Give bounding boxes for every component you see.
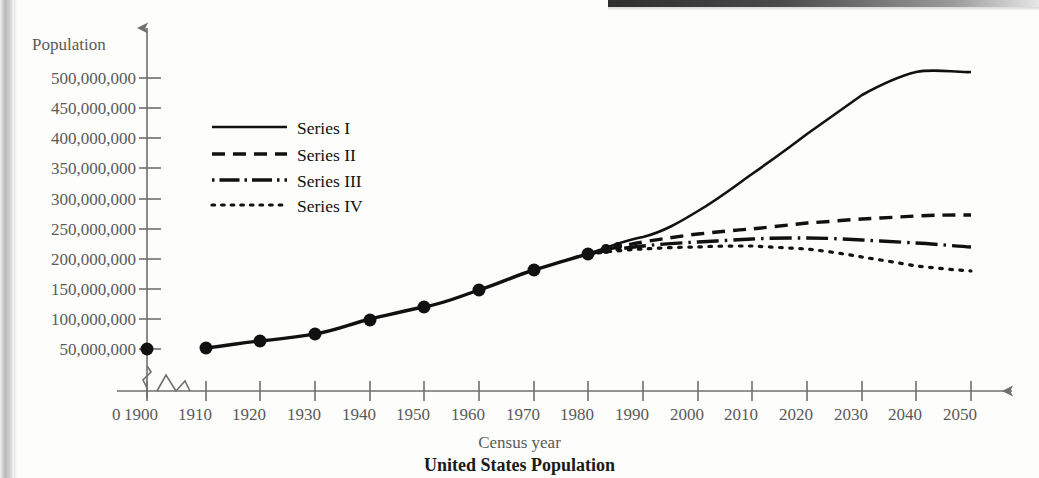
x-tick-label: 1940 bbox=[342, 406, 376, 423]
x-tick-label: 2000 bbox=[670, 406, 704, 423]
origin-label: 0 bbox=[112, 406, 121, 423]
figure-page: Population 500,000,000 450,000,000 400,0… bbox=[0, 0, 1039, 478]
x-tick-label: 1990 bbox=[615, 406, 649, 423]
chart-title: United States Population bbox=[0, 456, 1039, 474]
legend-sample-lines bbox=[212, 127, 287, 205]
y-tick-label: 150,000,000 bbox=[26, 281, 136, 298]
y-tick-label: 100,000,000 bbox=[26, 311, 136, 328]
y-axis-title: Population bbox=[32, 36, 106, 53]
x-tick-label: 1950 bbox=[396, 406, 430, 423]
x-tick-label: 1970 bbox=[506, 406, 540, 423]
x-tick-label: 1980 bbox=[560, 406, 594, 423]
data-point-markers bbox=[141, 242, 623, 356]
y-tick-label: 450,000,000 bbox=[26, 100, 136, 117]
x-tick-label: 1920 bbox=[232, 406, 266, 423]
x-tick-label: 1910 bbox=[178, 406, 212, 423]
legend-label-series-3: Series III bbox=[297, 171, 362, 192]
x-tick-label: 1960 bbox=[451, 406, 485, 423]
x-tick-label: 1930 bbox=[287, 406, 321, 423]
series-4-line bbox=[588, 246, 971, 271]
x-axis bbox=[117, 375, 1012, 401]
x-tick-label: 2050 bbox=[943, 406, 977, 423]
y-tick-label: 200,000,000 bbox=[26, 251, 136, 268]
x-axis-title: Census year bbox=[0, 434, 1039, 451]
legend-label-series-2: Series II bbox=[297, 145, 356, 166]
y-tick-label: 350,000,000 bbox=[26, 160, 136, 177]
y-axis bbox=[139, 28, 161, 398]
x-tick-label: 2030 bbox=[834, 406, 868, 423]
y-tick-label: 50,000,000 bbox=[26, 341, 136, 358]
y-tick-label: 300,000,000 bbox=[26, 191, 136, 208]
x-tick-label: 2040 bbox=[888, 406, 922, 423]
legend-label-series-1: Series I bbox=[297, 118, 350, 139]
y-tick-label: 400,000,000 bbox=[26, 130, 136, 147]
x-tick-label: 1900 bbox=[124, 406, 158, 423]
x-tick-label: 2020 bbox=[779, 406, 813, 423]
x-tick-label: 2010 bbox=[724, 406, 758, 423]
y-tick-label: 250,000,000 bbox=[26, 221, 136, 238]
y-tick-label: 500,000,000 bbox=[26, 70, 136, 87]
legend-label-series-4: Series IV bbox=[297, 196, 363, 217]
